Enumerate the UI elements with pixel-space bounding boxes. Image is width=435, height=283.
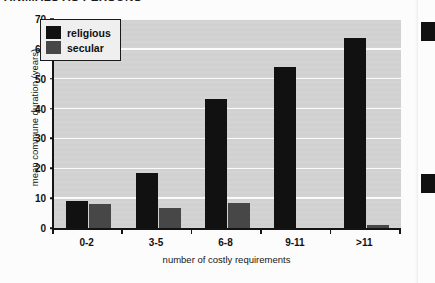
x-tick-label-9-11: 9-11 (285, 237, 304, 248)
bar-secular-0-2 (89, 204, 111, 228)
x-tick-mark (260, 228, 262, 234)
x-tick-mark (191, 228, 193, 234)
y-tick-label: 40 (35, 103, 46, 114)
page-edge-shadow (415, 0, 418, 283)
legend-row-secular: secular (46, 41, 111, 54)
y-tick-label: 10 (35, 193, 46, 204)
page-edge-mark-bottom (421, 174, 435, 193)
x-tick-mark (399, 228, 401, 234)
x-axis-title: number of costly requirements (52, 254, 401, 265)
legend-row-religious: religious (46, 26, 111, 39)
bar-secular-3-5 (159, 208, 181, 228)
y-tick-label: 20 (35, 163, 46, 174)
bar-secular-6-8 (228, 203, 250, 228)
legend-label-secular: secular (67, 42, 104, 54)
bar-religious-6-8 (205, 99, 227, 228)
y-tick-label: 0 (40, 223, 46, 234)
bar-religious-3-5 (136, 173, 158, 228)
x-tick-mark (121, 228, 123, 234)
x-tick-label-6-8: 6-8 (218, 237, 232, 248)
legend-label-religious: religious (67, 27, 111, 39)
x-tick-label-3-5: 3-5 (149, 237, 163, 248)
page-edge-mark-top (421, 22, 435, 41)
x-tick-label->11: >11 (356, 237, 372, 248)
page-running-header: ANIMALS AS PERSONS (4, 0, 174, 3)
y-tick-label: 50 (35, 73, 46, 84)
bar-religious-9-11 (274, 67, 296, 228)
legend-swatch-secular (46, 41, 61, 54)
chart-legend: religioussecular (40, 19, 121, 61)
bar-chart-figure: mean commune duration (years) 0102030405… (0, 6, 412, 271)
chart-screenshot: ANIMALS AS PERSONS mean commune duration… (0, 0, 435, 283)
bar-religious->11 (344, 38, 366, 228)
x-axis-line (52, 228, 401, 230)
x-tick-mark (52, 228, 54, 234)
x-tick-mark (330, 228, 332, 234)
legend-swatch-religious (46, 26, 61, 39)
x-tick-label-0-2: 0-2 (79, 237, 93, 248)
bar-religious-0-2 (66, 201, 88, 228)
y-tick-label: 30 (35, 133, 46, 144)
